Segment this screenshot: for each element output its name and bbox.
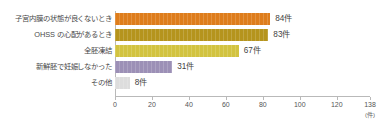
x-tick-label: 138 — [364, 101, 376, 108]
bar-row: 全胚凍結 67件 — [0, 43, 379, 59]
x-tick — [226, 97, 227, 100]
value-label-0: 84件 — [275, 11, 292, 27]
x-tick — [370, 97, 371, 100]
x-tick-label: 80 — [259, 101, 267, 108]
bar-1 — [115, 29, 268, 41]
x-tick — [189, 97, 190, 100]
bar-row: 新鮮胚で妊娠しなかった 31件 — [0, 59, 379, 75]
bar-fill — [115, 61, 172, 73]
category-label: OHSS の心配があるとき — [34, 27, 115, 43]
bar-2 — [115, 45, 239, 57]
x-tick-label: 0 — [113, 101, 117, 108]
x-tick — [263, 97, 264, 100]
bar-4 — [115, 77, 130, 89]
x-tick-label: 20 — [148, 101, 156, 108]
bar-row: OHSS の心配があるとき 83件 — [0, 27, 379, 43]
x-tick — [300, 97, 301, 100]
category-label: 全胚凍結 — [84, 43, 115, 59]
bar-fill — [115, 29, 268, 41]
x-tick — [115, 97, 116, 100]
x-tick-label: 40 — [185, 101, 193, 108]
value-label-1: 83件 — [273, 27, 290, 43]
value-label-2: 67件 — [244, 43, 261, 59]
value-label-3: 31件 — [177, 59, 194, 75]
bar-0 — [115, 13, 270, 25]
x-tick-label: 60 — [222, 101, 230, 108]
bar-fill — [115, 45, 239, 57]
bar-row: 子宮内膜の状態が良くないとき 84件 — [0, 11, 379, 27]
bar-fill — [115, 13, 270, 25]
bar-row: その他 8件 — [0, 75, 379, 91]
bar-fill — [115, 77, 130, 89]
x-tick — [337, 97, 338, 100]
x-tick-label: 120 — [331, 101, 343, 108]
horizontal-bar-chart: 子宮内膜の状態が良くないとき 84件 OHSS の心配があるとき 83件 全胚凍… — [0, 0, 379, 133]
x-axis-unit-label: (件) — [365, 110, 375, 119]
category-label: 子宮内膜の状態が良くないとき — [15, 11, 115, 27]
category-label: 新鮮胚で妊娠しなかった — [36, 59, 115, 75]
bar-3 — [115, 61, 172, 73]
x-tick — [152, 97, 153, 100]
category-label: その他 — [91, 75, 115, 91]
value-label-4: 8件 — [135, 75, 148, 91]
x-tick-label: 100 — [294, 101, 306, 108]
